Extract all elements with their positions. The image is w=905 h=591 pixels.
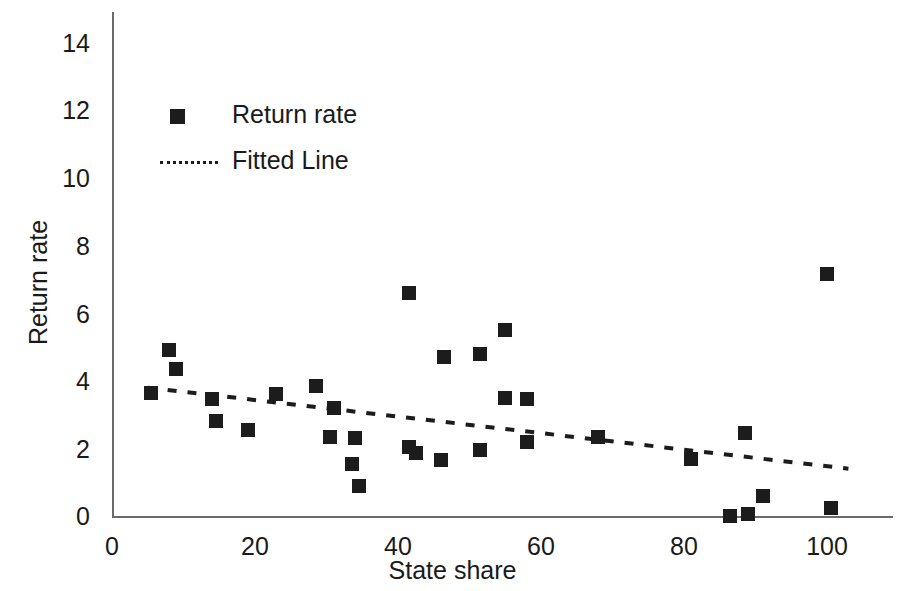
data-point bbox=[434, 453, 448, 467]
dotted-line-icon bbox=[160, 161, 218, 164]
data-point bbox=[684, 452, 698, 466]
y-axis-tick-label: 2 bbox=[18, 435, 90, 464]
data-point bbox=[820, 267, 834, 281]
data-point bbox=[498, 391, 512, 405]
data-point bbox=[205, 392, 219, 406]
y-axis-line bbox=[112, 12, 114, 518]
data-point bbox=[209, 414, 223, 428]
legend-item-return-rate: Return rate bbox=[160, 100, 460, 146]
data-point bbox=[162, 343, 176, 357]
y-axis-tick-label: 14 bbox=[18, 29, 90, 58]
data-point bbox=[323, 430, 337, 444]
x-axis-line bbox=[112, 516, 893, 518]
data-point bbox=[437, 350, 451, 364]
plot-area bbox=[0, 0, 905, 591]
data-point bbox=[309, 379, 323, 393]
x-axis-title: State share bbox=[0, 556, 905, 585]
data-point bbox=[402, 286, 416, 300]
data-point bbox=[473, 443, 487, 457]
data-point bbox=[269, 387, 283, 401]
data-point bbox=[144, 386, 158, 400]
data-point bbox=[169, 362, 183, 376]
y-axis-tick-label: 12 bbox=[18, 96, 90, 125]
fitted-line bbox=[0, 0, 905, 591]
data-point bbox=[473, 347, 487, 361]
data-point bbox=[402, 440, 416, 454]
scatter-chart: 14 12 10 8 6 4 2 0 0 20 40 60 80 100 Ret… bbox=[0, 0, 905, 591]
square-marker-icon bbox=[170, 109, 185, 124]
y-axis-title: Return rate bbox=[24, 173, 53, 393]
data-point bbox=[520, 435, 534, 449]
data-point bbox=[520, 392, 534, 406]
data-point bbox=[498, 323, 512, 337]
data-point bbox=[741, 507, 755, 521]
data-point bbox=[738, 426, 752, 440]
data-point bbox=[824, 501, 838, 515]
data-point bbox=[352, 479, 366, 493]
data-point bbox=[345, 457, 359, 471]
y-axis-tick-label: 0 bbox=[18, 502, 90, 531]
data-point bbox=[348, 431, 362, 445]
data-point bbox=[591, 430, 605, 444]
legend-label: Fitted Line bbox=[232, 146, 349, 175]
data-point bbox=[241, 423, 255, 437]
legend-label: Return rate bbox=[232, 100, 357, 129]
data-point bbox=[409, 446, 423, 460]
data-point bbox=[756, 489, 770, 503]
data-point bbox=[327, 401, 341, 415]
legend-item-fitted-line: Fitted Line bbox=[160, 146, 460, 192]
legend: Return rate Fitted Line bbox=[160, 100, 460, 192]
